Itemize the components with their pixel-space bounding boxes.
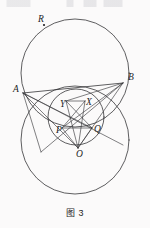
upper-circle xyxy=(21,19,129,127)
label-A: A xyxy=(12,84,19,94)
label-R: R xyxy=(37,14,44,24)
label-Q: Q xyxy=(94,124,101,134)
label-O: O xyxy=(76,149,83,159)
label-P: P xyxy=(55,125,62,135)
segment-O-Q xyxy=(78,128,92,148)
inner-circle xyxy=(48,89,104,145)
geometry-figure: R A B Y X P Q O xyxy=(0,0,150,228)
label-X: X xyxy=(85,97,93,107)
label-Y: Y xyxy=(60,99,67,109)
figure-caption: 图 3 xyxy=(0,206,150,219)
figure-page: R A B Y X P Q O 图 3 xyxy=(0,0,150,228)
point-marker-R xyxy=(43,24,45,26)
label-B: B xyxy=(128,72,134,82)
